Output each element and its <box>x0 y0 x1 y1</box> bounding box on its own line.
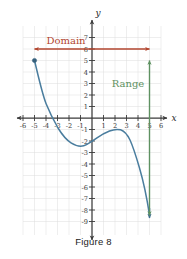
y-tick-label: 1 <box>84 103 88 111</box>
x-tick-label: -4 <box>43 122 49 130</box>
x-tick-label: 1 <box>101 122 105 130</box>
y-tick-label: 3 <box>84 80 88 88</box>
y-tick-label: -1 <box>82 126 88 134</box>
x-tick-label: 4 <box>136 122 140 130</box>
y-tick-label: 5 <box>84 57 88 65</box>
x-tick-label: -2 <box>66 122 72 130</box>
x-tick-label: 2 <box>113 122 117 130</box>
x-tick-label: 6 <box>159 122 163 130</box>
figure-caption: Figure 8 <box>0 236 187 247</box>
y-tick-label: -5 <box>82 172 88 180</box>
y-tick-label: 2 <box>84 92 88 100</box>
x-tick-label: -6 <box>20 122 26 130</box>
y-tick-label: -8 <box>82 207 88 215</box>
x-axis-label: x <box>171 113 176 123</box>
y-axis-label: y <box>94 8 101 18</box>
figure-container: -6 -5 -4 -3 -2 -1 1 2 3 4 5 6 7 6 5 4 3 … <box>0 0 187 259</box>
coordinate-plane-chart: -6 -5 -4 -3 -2 -1 1 2 3 4 5 6 7 6 5 4 3 … <box>0 0 187 259</box>
y-tick-label: -6 <box>82 184 88 192</box>
domain-label: Domain <box>46 35 86 46</box>
y-tick-label: -3 <box>82 149 88 157</box>
x-tick-label: -5 <box>31 122 37 130</box>
range-label: Range <box>112 78 145 89</box>
y-tick-label: -9 <box>82 218 88 226</box>
x-tick-label: 3 <box>124 122 128 130</box>
curve-start-point <box>32 58 36 62</box>
y-tick-label: 4 <box>84 69 88 77</box>
y-tick-label: -4 <box>82 161 88 169</box>
y-tick-label: -7 <box>82 195 88 203</box>
